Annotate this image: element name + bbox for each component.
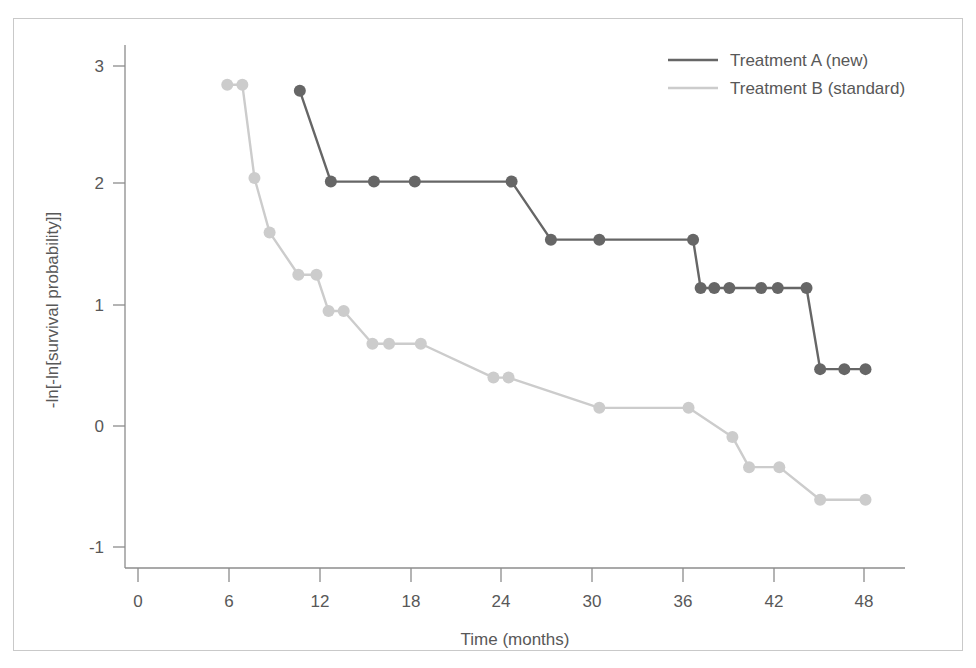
- data-point: [726, 431, 738, 443]
- data-point: [860, 363, 872, 375]
- y-tick-label-1: 1: [95, 296, 104, 315]
- data-point: [221, 79, 233, 91]
- data-point: [814, 494, 826, 506]
- legend-label-treatment-a: Treatment A (new): [730, 51, 868, 70]
- data-point: [772, 282, 784, 294]
- data-point: [545, 234, 557, 246]
- x-tick-label-18: 18: [402, 592, 421, 611]
- data-point: [755, 282, 767, 294]
- series-line: [227, 85, 865, 500]
- series-layer: [221, 79, 871, 506]
- series-line: [300, 91, 866, 369]
- x-tick-label-36: 36: [674, 592, 693, 611]
- data-point: [838, 363, 850, 375]
- data-point: [503, 372, 515, 384]
- data-point: [683, 402, 695, 414]
- data-point: [695, 282, 707, 294]
- legend-label-treatment-b: Treatment B (standard): [730, 79, 905, 98]
- data-point: [593, 234, 605, 246]
- data-point: [723, 282, 735, 294]
- x-tick-label-12: 12: [311, 592, 330, 611]
- y-axis-title: -ln[-ln[survival probability]]: [43, 212, 62, 409]
- x-tick-label-6: 6: [224, 592, 233, 611]
- y-axis-tick-labels: 3 2 1 0 -1: [89, 57, 104, 557]
- data-point: [383, 338, 395, 350]
- x-tick-label-24: 24: [492, 592, 511, 611]
- data-point: [366, 338, 378, 350]
- data-point: [743, 461, 755, 473]
- x-axis-ticks: [138, 568, 864, 582]
- data-point: [415, 338, 427, 350]
- figure-canvas: 3 2 1 0 -1 0 6 12 18 24 30 36 42: [0, 0, 976, 668]
- y-tick-label-0: 0: [95, 417, 104, 436]
- x-axis-title: Time (months): [461, 630, 570, 649]
- data-point: [773, 461, 785, 473]
- data-point: [708, 282, 720, 294]
- data-point: [860, 494, 872, 506]
- legend: Treatment A (new) Treatment B (standard): [668, 51, 905, 98]
- data-point: [487, 372, 499, 384]
- survival-log-log-chart: 3 2 1 0 -1 0 6 12 18 24 30 36 42: [0, 0, 976, 668]
- y-tick-label-3: 3: [95, 57, 104, 76]
- data-point: [236, 79, 248, 91]
- series-treatment-a: [294, 85, 872, 375]
- data-point: [409, 176, 421, 188]
- data-point: [338, 305, 350, 317]
- x-tick-label-0: 0: [133, 592, 142, 611]
- data-point: [814, 363, 826, 375]
- data-point: [248, 172, 260, 184]
- y-tick-label-neg1: -1: [89, 538, 104, 557]
- x-tick-label-42: 42: [765, 592, 784, 611]
- data-point: [506, 176, 518, 188]
- data-point: [801, 282, 813, 294]
- data-point: [310, 269, 322, 281]
- x-axis-tick-labels: 0 6 12 18 24 30 36 42 48: [133, 592, 873, 611]
- y-tick-label-2: 2: [95, 174, 104, 193]
- x-tick-label-30: 30: [583, 592, 602, 611]
- data-point: [264, 226, 276, 238]
- data-point: [292, 269, 304, 281]
- data-point: [325, 176, 337, 188]
- data-point: [687, 234, 699, 246]
- x-tick-label-48: 48: [855, 592, 874, 611]
- data-point: [294, 85, 306, 97]
- data-point: [323, 305, 335, 317]
- data-point: [368, 176, 380, 188]
- data-point: [593, 402, 605, 414]
- y-axis-ticks: [113, 66, 125, 547]
